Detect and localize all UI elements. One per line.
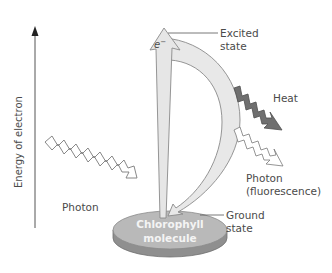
fluorescence-photon-arrow: Photon (fluorescence)	[234, 127, 321, 197]
molecule-label-line2: molecule	[143, 232, 196, 244]
photon-in-label: Photon	[62, 201, 99, 213]
photon-out-label-line2: (fluorescence)	[246, 185, 321, 197]
excited-state-label-line2: state	[220, 40, 247, 52]
heat-label: Heat	[273, 92, 298, 104]
incoming-photon-arrow: Photon	[45, 136, 137, 213]
heat-arrow: Heat	[234, 86, 298, 130]
diagram-canvas: Energy of electron Chlorophyll molecule …	[0, 0, 332, 273]
ground-state-label-line2: state	[226, 222, 253, 234]
chlorophyll-disk: Chlorophyll molecule	[113, 211, 227, 257]
chlorophyll-excitation-diagram: Energy of electron Chlorophyll molecule …	[0, 0, 332, 273]
fluorescence-zigzag-icon	[234, 127, 283, 166]
return-arc-arrow	[163, 38, 240, 216]
photon-out-label-line1: Photon	[246, 172, 283, 184]
energy-axis: Energy of electron	[13, 26, 39, 228]
axis-label: Energy of electron	[13, 96, 24, 188]
ground-state-label-line1: Ground	[226, 209, 265, 221]
axis-arrowhead-icon	[32, 26, 39, 36]
photon-in-zigzag-icon	[45, 136, 137, 178]
molecule-label-line1: Chlorophyll	[136, 218, 203, 230]
excited-state-label-line1: Excited	[220, 27, 259, 39]
return-arc-shape	[163, 38, 240, 216]
